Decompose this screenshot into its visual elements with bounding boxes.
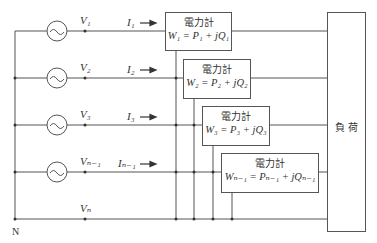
neutral-label: N (12, 226, 19, 237)
wattmeter-label: 電力計 (203, 111, 269, 123)
current-label-2: I₂ (127, 64, 135, 75)
wattmeter-label: 電力計 (184, 64, 250, 76)
voltage-label-n-1: Vₙ₋₁ (80, 156, 101, 167)
load-label: 負 荷 (328, 119, 365, 134)
current-label-1: I₁ (127, 17, 135, 28)
wattmeter-n-1: 電力計 Wₙ₋₁ = Pₙ₋₁ + jQₙ₋₁ (221, 153, 319, 193)
wattmeter-formula: W₃ = P₃ + jQ₃ (203, 123, 269, 136)
wattmeter-2: 電力計 W₂ = P₂ + jQ₂ (183, 59, 251, 99)
voltage-label-3: V₃ (80, 109, 91, 120)
wattmeter-formula: W₂ = P₂ + jQ₂ (184, 76, 250, 89)
voltage-label-n: Vₙ (80, 203, 91, 214)
wattmeter-formula: Wₙ₋₁ = Pₙ₋₁ + jQₙ₋₁ (222, 170, 318, 183)
wattmeter-label: 電力計 (166, 17, 231, 29)
wattmeter-3: 電力計 W₃ = P₃ + jQ₃ (202, 106, 270, 146)
wattmeter-1: 電力計 W₁ = P₁ + jQ₁ (165, 12, 232, 51)
current-label-n-1: Iₙ₋₁ (118, 158, 136, 169)
wattmeter-formula: W₁ = P₁ + jQ₁ (166, 29, 231, 42)
current-label-3: I₃ (127, 111, 135, 122)
wattmeter-label: 電力計 (222, 158, 318, 170)
voltage-label-2: V₂ (80, 62, 91, 73)
load-box: 負 荷 (327, 12, 366, 232)
voltage-label-1: V₁ (80, 15, 91, 26)
